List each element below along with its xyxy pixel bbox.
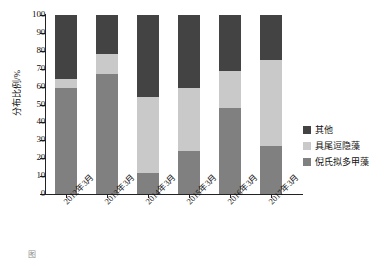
chart-legend: 其他具尾逗隐藻倪氏拟多甲藻 <box>303 124 387 172</box>
bar-segment <box>260 60 282 146</box>
bar-segment <box>219 108 241 194</box>
y-tick-label: 30 <box>5 135 45 144</box>
bar-segment <box>55 15 77 79</box>
bar-segment <box>219 71 241 109</box>
legend-label: 倪氏拟多甲藻 <box>315 157 369 167</box>
bar-segment <box>137 97 159 172</box>
bar-segment <box>96 15 118 54</box>
stacked-bar <box>55 15 77 194</box>
stacked-bar <box>219 15 241 194</box>
bar-segment <box>219 15 241 70</box>
bar-segment <box>96 54 118 74</box>
bar-segment <box>55 88 77 194</box>
bar-segment <box>55 79 77 88</box>
legend-label: 具尾逗隐藻 <box>315 141 360 151</box>
y-tick-label: 60 <box>5 82 45 91</box>
stacked-bar <box>96 15 118 194</box>
y-tick-label: 90 <box>5 28 45 37</box>
figure-caption: 图 <box>28 250 378 258</box>
bar-segment <box>137 15 159 97</box>
bar-segment <box>260 15 282 60</box>
legend-swatch-icon <box>303 126 311 134</box>
y-axis-ticks: 1009080706050403020100 <box>0 0 45 258</box>
stacked-bar <box>260 15 282 194</box>
legend-swatch-icon <box>303 142 311 150</box>
stacked-bar <box>178 15 200 194</box>
bar-segment <box>178 88 200 151</box>
legend-item: 倪氏拟多甲藻 <box>303 156 387 168</box>
plot-area <box>45 15 295 194</box>
y-tick-label: 100 <box>5 10 45 19</box>
y-tick-label: 20 <box>5 153 45 162</box>
y-tick-label: 0 <box>5 189 45 198</box>
y-tick-label: 10 <box>5 171 45 180</box>
bar-segment <box>178 15 200 88</box>
stacked-bar <box>137 15 159 194</box>
y-tick-label: 40 <box>5 117 45 126</box>
x-axis-line <box>45 194 303 195</box>
chart-figure: 分布比例/% 1009080706050403020100 2012年3月201… <box>0 0 387 258</box>
legend-item: 其他 <box>303 124 387 136</box>
bar-segment <box>96 74 118 194</box>
legend-item: 具尾逗隐藻 <box>303 140 387 152</box>
legend-label: 其他 <box>315 125 333 135</box>
y-tick-label: 70 <box>5 64 45 73</box>
y-tick-label: 80 <box>5 46 45 55</box>
legend-swatch-icon <box>303 158 311 166</box>
y-tick-label: 50 <box>5 100 45 109</box>
